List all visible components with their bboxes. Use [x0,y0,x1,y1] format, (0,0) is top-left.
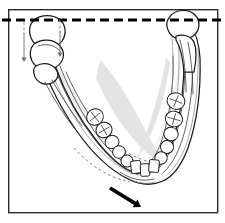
figure-container [0,0,225,223]
tooth-right-incisor-lateral-crown [148,159,159,172]
tooth-right-incisor-lateral [148,159,159,172]
left-coronoid-block [34,64,58,85]
mandible-illustration [0,0,225,223]
